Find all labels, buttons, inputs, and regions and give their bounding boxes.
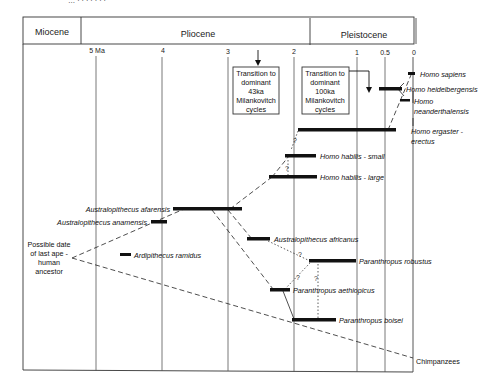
bar-paranthropus-aethiopicus: [270, 288, 290, 292]
bar-homo-habilis-small: [285, 154, 316, 158]
label-homo-heidelbergensis: Homo heidelbergensis: [406, 85, 478, 94]
arrow-down-icon: [255, 60, 261, 66]
label-paranthropus-robustus: Paranthropus robustus: [359, 257, 432, 266]
tick-label-0ma: 0: [412, 49, 416, 56]
label-homo-habilis-small: Homo habilis - small: [320, 152, 385, 161]
svg-text:Transition to: Transition to: [236, 69, 275, 78]
tick-label-5ma: 5 Ma: [89, 47, 105, 54]
bar-homo-sapiens: [408, 72, 415, 75]
tick-label-3ma: 3: [226, 48, 230, 55]
connector-afarensis-to-africanus: [228, 210, 252, 239]
svg-text:dominant: dominant: [310, 78, 340, 87]
bar-homo-habilis-large: [269, 175, 317, 179]
label-homo-neanderthalensis-1: Homo: [414, 97, 433, 106]
bar-homo-neanderthalensis: [400, 99, 410, 102]
tick-label-4ma: 4: [161, 47, 165, 54]
epoch-miocene: Miocene: [35, 27, 69, 37]
label-australopithecus-afarensis: Australopithecus afarensis: [85, 205, 171, 214]
svg-text:dominant: dominant: [241, 78, 271, 87]
label-paranthropus-boisei: Paranthropus boisei: [339, 316, 403, 325]
connector-afarensis-to-aethiopicus: [212, 210, 273, 289]
label-australopithecus-anamensis: Australopithecus anamensis: [56, 218, 147, 227]
label-ardipithecus-ramidus: Ardipithecus ramidus: [133, 251, 202, 260]
bar-australopithecus-anamensis: [151, 220, 167, 224]
epoch-header: Miocene Pliocene Pleistocene: [23, 17, 416, 45]
svg-text:?: ?: [314, 275, 318, 282]
hominin-phylogeny-diagram: … · · · · · · · Miocene Pliocene Pleisto…: [0, 0, 502, 390]
svg-text:100ka: 100ka: [315, 87, 335, 96]
svg-text:Possible date: Possible date: [27, 240, 70, 249]
svg-text:43ka: 43ka: [248, 87, 264, 96]
bar-homo-heidelbergensis: [379, 87, 402, 91]
label-australopithecus-africanus: Australopithecus africanus: [273, 235, 359, 244]
bar-paranthropus-boisei: [292, 318, 336, 322]
connector-aethiopicus-to-boisei: [283, 291, 294, 319]
tick-label-1ma: 1: [355, 49, 359, 56]
connector-afarensis-to-habilis-large: [230, 177, 272, 209]
bar-homo-ergaster-erectus: [298, 128, 396, 132]
label-homo-habilis-large: Homo habilis - large: [320, 173, 384, 182]
svg-text:Milankovitch: Milankovitch: [305, 96, 345, 105]
svg-text:of last ape -: of last ape -: [30, 249, 68, 258]
svg-text:Transition to: Transition to: [305, 69, 344, 78]
epoch-pleistocene: Pleistocene: [341, 30, 388, 40]
connector-ergaster-to-sapiens: [388, 75, 411, 130]
milankovitch-100ka-annotation: Transition to dominant 100ka Milankovitc…: [302, 67, 372, 114]
label-chimpanzees: Chimpanzees: [416, 357, 460, 366]
svg-text:ancestor: ancestor: [35, 267, 63, 276]
bar-australopithecus-afarensis: [173, 207, 242, 211]
svg-text:?: ?: [293, 137, 297, 144]
label-homo-neanderthalensis-2: neanderthalensis: [414, 107, 469, 116]
label-paranthropus-aethiopicus: Paranthropus aethiopicus: [293, 286, 375, 295]
bar-australopithecus-africanus: [247, 237, 270, 241]
header-cutoff-text: … · · · · · · ·: [68, 0, 106, 5]
label-homo-ergaster-2: erectus: [411, 137, 435, 146]
tick-label-2ma: 2: [292, 48, 296, 55]
label-homo-sapiens: Homo sapiens: [420, 70, 466, 79]
bar-paranthropus-robustus: [309, 259, 356, 263]
arrow-100ka-line: [349, 71, 369, 89]
connector-ancestor-to-chimpanzees: [72, 258, 413, 358]
svg-text:?: ?: [285, 165, 289, 172]
svg-text:?: ?: [296, 274, 300, 281]
svg-text:cycles: cycles: [315, 105, 335, 114]
milankovitch-43ka-annotation: Transition to dominant 43ka Milankovitch…: [233, 50, 279, 114]
ancestor-annotation: Possible date of last ape - human ancest…: [27, 240, 70, 276]
svg-text:cycles: cycles: [246, 105, 266, 114]
bar-ardipithecus-ramidus: [120, 253, 131, 256]
epoch-pliocene: Pliocene: [181, 29, 216, 39]
tick-label-05ma: 0.5: [380, 49, 390, 56]
svg-text:Milankovitch: Milankovitch: [236, 96, 276, 105]
label-homo-ergaster-1: Homo ergaster -: [411, 127, 464, 136]
svg-text:human: human: [38, 258, 60, 267]
arrow-down-icon: [366, 87, 372, 93]
svg-text:?: ?: [298, 251, 302, 258]
